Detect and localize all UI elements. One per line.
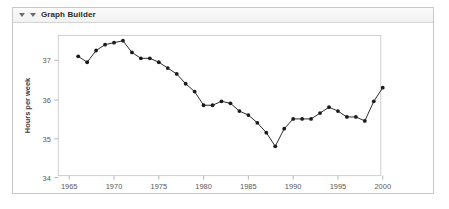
x-axis: 1965 1970 1975 1980 1985 1990 1995 2000 (61, 176, 391, 191)
data-point[interactable] (372, 99, 376, 103)
data-point[interactable] (121, 39, 125, 43)
data-point[interactable] (166, 66, 170, 70)
data-point[interactable] (112, 41, 116, 45)
data-point[interactable] (345, 115, 349, 119)
chart-container[interactable]: 37 36 35 34 Hours per week 1965 1970 197… (13, 23, 433, 193)
data-point[interactable] (282, 127, 286, 131)
x-tick-label: 1970 (106, 182, 123, 191)
data-point[interactable] (363, 119, 367, 123)
graph-builder-panel: Graph Builder 37 36 35 34 Hours per week (12, 7, 434, 194)
data-point[interactable] (94, 49, 98, 53)
data-point[interactable] (309, 117, 313, 121)
y-tick-label: 34 (43, 174, 51, 183)
line-chart[interactable]: 37 36 35 34 Hours per week 1965 1970 197… (13, 23, 433, 193)
x-tick-label: 1975 (151, 182, 168, 191)
data-point[interactable] (157, 60, 161, 64)
data-point[interactable] (381, 86, 385, 90)
data-point[interactable] (327, 105, 331, 109)
data-point[interactable] (85, 60, 89, 64)
data-point[interactable] (184, 82, 188, 86)
y-axis-title: Hours per week (23, 77, 32, 133)
data-point[interactable] (220, 99, 224, 103)
data-point[interactable] (264, 131, 268, 135)
data-point[interactable] (273, 144, 277, 148)
data-point[interactable] (238, 109, 242, 113)
data-point[interactable] (246, 113, 250, 117)
panel-title: Graph Builder (41, 11, 96, 19)
data-point[interactable] (318, 111, 322, 115)
data-point[interactable] (336, 109, 340, 113)
x-tick-label: 1965 (61, 182, 78, 191)
y-tick-label: 36 (43, 96, 51, 105)
data-point[interactable] (139, 56, 143, 60)
x-tick-label: 1985 (240, 182, 257, 191)
data-point[interactable] (300, 117, 304, 121)
data-point[interactable] (211, 103, 215, 107)
data-point[interactable] (255, 121, 259, 125)
data-point[interactable] (148, 56, 152, 60)
triangle-down-icon-secondary[interactable] (30, 13, 36, 17)
data-point[interactable] (76, 54, 80, 58)
data-point[interactable] (103, 43, 107, 47)
x-tick-label: 1995 (330, 182, 347, 191)
x-tick-label: 1980 (195, 182, 212, 191)
x-tick-label: 1990 (285, 182, 302, 191)
panel-title-bar[interactable]: Graph Builder (13, 8, 433, 23)
data-point[interactable] (229, 101, 233, 105)
triangle-down-icon[interactable] (19, 13, 25, 17)
data-point[interactable] (130, 51, 134, 55)
y-tick-label: 35 (43, 135, 51, 144)
plot-frame (58, 35, 380, 175)
data-point[interactable] (291, 117, 295, 121)
x-tick-label: 2000 (374, 182, 391, 191)
y-axis: 37 36 35 34 (43, 56, 59, 182)
data-point[interactable] (202, 103, 206, 107)
y-tick-label: 37 (43, 56, 51, 65)
data-point[interactable] (175, 72, 179, 76)
data-point[interactable] (193, 90, 197, 94)
data-point[interactable] (354, 115, 358, 119)
